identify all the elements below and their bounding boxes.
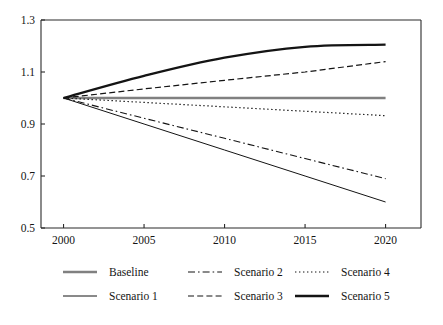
x-tick-label: 2020 <box>374 234 397 246</box>
x-tick-label: 2005 <box>133 234 156 246</box>
x-tick-label: 2010 <box>213 234 236 246</box>
plot-background <box>41 20 421 228</box>
legend-label-baseline: Baseline <box>109 266 149 278</box>
legend-label-scenario-4: Scenario 4 <box>341 266 390 278</box>
x-tick-label: 2000 <box>52 234 75 246</box>
x-tick-label: 2015 <box>294 234 317 246</box>
y-tick-label: 0.5 <box>21 222 36 234</box>
y-tick-label: 1.1 <box>21 66 36 78</box>
line-chart-svg: 0.50.70.91.11.3 20002005201020152020 Bas… <box>0 0 443 325</box>
y-tick-label: 0.7 <box>21 170 36 182</box>
y-tick-label: 0.9 <box>21 118 36 130</box>
legend-label-scenario-1: Scenario 1 <box>109 290 158 302</box>
chart-legend: BaselineScenario 2Scenario 4Scenario 1Sc… <box>63 266 390 302</box>
legend-label-scenario-5: Scenario 5 <box>341 290 390 302</box>
legend-label-scenario-2: Scenario 2 <box>234 266 283 278</box>
legend-label-scenario-3: Scenario 3 <box>234 290 283 302</box>
chart-figure: 0.50.70.91.11.3 20002005201020152020 Bas… <box>0 0 443 325</box>
y-tick-label: 1.3 <box>21 14 36 26</box>
